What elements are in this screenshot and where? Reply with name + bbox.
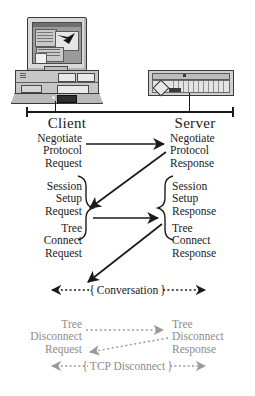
- tcp-disconnect-phase-band: { TCP Disconnect }: [0, 358, 255, 374]
- drive-bay: [58, 73, 76, 82]
- message-negotiate-protocol-response: Negotiate Protocol Response: [170, 132, 254, 169]
- message-line: Session: [172, 180, 255, 192]
- message-line: Connect: [172, 234, 255, 246]
- monitor-icon: [27, 17, 87, 71]
- server-computer-icon: [148, 70, 234, 96]
- arrows-and-braces-layer: [0, 130, 255, 396]
- computer-tower-icon: [15, 70, 99, 96]
- conversation-open-brace: {: [88, 284, 96, 296]
- session-setup-response-arrow: [88, 224, 162, 282]
- message-line: Tree: [2, 222, 82, 234]
- server-network-stem: [189, 93, 190, 112]
- message-line: Response: [172, 343, 255, 355]
- message-line: Tree: [0, 318, 82, 330]
- server-indicator-icon: [183, 74, 186, 77]
- message-line: Response: [172, 205, 255, 217]
- diagram-canvas: Client Server: [0, 0, 255, 396]
- message-tree-disconnect-request: Tree Disconnect Request: [0, 318, 82, 355]
- drive-bay: [57, 85, 89, 94]
- message-line: Request: [2, 157, 82, 169]
- conversation-phase-band: { Conversation }: [0, 282, 255, 298]
- message-line: Tree: [172, 222, 255, 234]
- vent-icon: [20, 73, 26, 79]
- message-tree-disconnect-response: Tree Disconnect Response: [172, 318, 255, 355]
- power-led-icon: [52, 96, 55, 99]
- message-line: Request: [0, 343, 82, 355]
- message-line: Negotiate: [170, 132, 254, 144]
- message-tree-connect-response: Tree Connect Response: [172, 222, 255, 259]
- message-line: Protocol: [2, 144, 82, 156]
- drive-bay: [77, 73, 95, 82]
- message-line: Response: [170, 157, 254, 169]
- message-line: Disconnect: [172, 330, 255, 342]
- message-line: Request: [2, 247, 82, 259]
- floppy-drive-icon: [57, 95, 77, 103]
- message-line: Disconnect: [0, 330, 82, 342]
- message-line: Protocol: [170, 144, 254, 156]
- conversation-label: Conversation: [96, 284, 159, 296]
- monitor-screen: [32, 22, 82, 64]
- message-line: Tree: [172, 318, 255, 330]
- screen-window: [35, 53, 47, 64]
- endpoints-illustration: Client Server: [0, 0, 255, 130]
- message-negotiate-protocol-request: Negotiate Protocol Request: [2, 132, 82, 169]
- server-label-plate: [169, 88, 181, 92]
- screen-titlebar: [33, 23, 81, 27]
- conversation-close-brace: }: [159, 284, 167, 296]
- message-line: Negotiate: [2, 132, 82, 144]
- negotiate-response-arrow: [90, 152, 166, 208]
- bird-logo-icon: [56, 32, 76, 47]
- screen-text-lines: [37, 32, 53, 42]
- server-responses-brace: [158, 176, 173, 240]
- message-flow: Negotiate Protocol Request Negotiate Pro…: [0, 130, 255, 396]
- tcp-disconnect-close-brace: }: [166, 360, 174, 372]
- message-line: Request: [2, 205, 82, 217]
- tree-disconnect-response-arrow: [90, 338, 168, 352]
- message-session-setup-request: Session Setup Request: [2, 180, 82, 217]
- tcp-disconnect-label: TCP Disconnect: [89, 360, 166, 372]
- message-tree-connect-request: Tree Connect Request: [2, 222, 82, 259]
- network-bus-line: [26, 111, 234, 113]
- drive-bay: [21, 85, 42, 93]
- message-line: Connect: [2, 234, 82, 246]
- message-line: Session: [2, 180, 82, 192]
- message-line: Setup: [2, 192, 82, 204]
- message-session-setup-response: Session Setup Response: [172, 180, 255, 217]
- tcp-disconnect-open-brace: {: [81, 360, 89, 372]
- message-line: Response: [172, 247, 255, 259]
- message-line: Setup: [172, 192, 255, 204]
- server-top-panel: [152, 73, 230, 80]
